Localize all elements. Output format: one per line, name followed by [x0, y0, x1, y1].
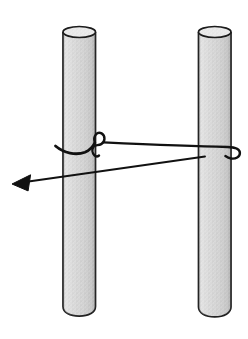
pull-arrow-line — [29, 157, 206, 182]
right-pole-shading — [199, 32, 232, 317]
rope-poles-diagram — [0, 0, 248, 339]
right-pole — [199, 27, 232, 317]
left-pole-top-cap-outline — [63, 27, 96, 38]
diagram-canvas — [0, 0, 248, 339]
pull-arrow — [12, 157, 205, 191]
right-pole-top-cap-outline — [199, 27, 232, 38]
left-pole — [63, 27, 96, 317]
pull-arrowhead-left-icon — [12, 175, 31, 191]
